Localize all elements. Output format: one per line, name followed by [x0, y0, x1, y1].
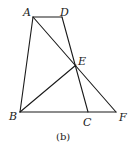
segment-AB	[20, 17, 33, 112]
point-label-E: E	[77, 55, 86, 68]
point-label-D: D	[59, 6, 69, 19]
segment-BE	[20, 65, 76, 112]
segment-AF	[33, 17, 116, 112]
figure-caption: (b)	[56, 131, 70, 142]
point-label-C: C	[83, 116, 92, 129]
geometry-figure: A D E B C F (b)	[0, 0, 135, 151]
point-label-F: F	[118, 111, 127, 124]
point-label-A: A	[22, 6, 31, 19]
point-label-B: B	[8, 110, 17, 123]
